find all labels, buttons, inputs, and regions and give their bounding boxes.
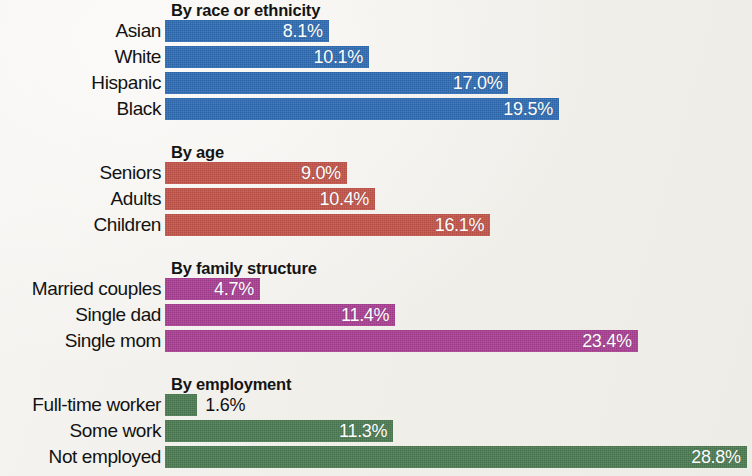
chart-group: By race or ethnicityAsian8.1%White10.1%H… bbox=[0, 0, 752, 124]
bar: 4.7% bbox=[165, 278, 260, 300]
bar-track: 10.4% bbox=[165, 188, 752, 210]
bar: 10.1% bbox=[165, 46, 369, 68]
chart-group: By employmentFull-time worker1.6%Some wo… bbox=[0, 374, 752, 472]
bar: 23.4% bbox=[165, 330, 638, 352]
bar-track: 1.6% bbox=[165, 394, 752, 416]
bar-track: 23.4% bbox=[165, 330, 752, 352]
group-spacer bbox=[0, 356, 752, 374]
bar-value-label: 23.4% bbox=[582, 330, 638, 352]
chart-row: Not employed28.8% bbox=[0, 446, 752, 472]
bar-value-label: 16.1% bbox=[435, 214, 491, 236]
group-spacer bbox=[0, 124, 752, 142]
group-rows: Full-time worker1.6%Some work11.3%Not em… bbox=[0, 394, 752, 472]
group-heading: By employment bbox=[0, 374, 752, 394]
group-heading: By family structure bbox=[0, 258, 752, 278]
category-label: Not employed bbox=[0, 446, 165, 468]
group-rows: Married couples4.7%Single dad11.4%Single… bbox=[0, 278, 752, 356]
bar-value-label: 19.5% bbox=[503, 98, 559, 120]
chart-row: Asian8.1% bbox=[0, 20, 752, 46]
bar: 19.5% bbox=[165, 98, 559, 120]
bar-track: 4.7% bbox=[165, 278, 752, 300]
category-label: Hispanic bbox=[0, 72, 165, 94]
category-label: Single mom bbox=[0, 330, 165, 352]
bar: 1.6% bbox=[165, 394, 197, 416]
chart-row: Single dad11.4% bbox=[0, 304, 752, 330]
category-label: Married couples bbox=[0, 278, 165, 300]
bar-value-label: 4.7% bbox=[214, 278, 260, 300]
bar-value-label: 10.4% bbox=[320, 188, 376, 210]
chart-group: By family structureMarried couples4.7%Si… bbox=[0, 258, 752, 356]
bar-value-label: 11.3% bbox=[339, 420, 393, 442]
chart-row: Adults10.4% bbox=[0, 188, 752, 214]
bar: 16.1% bbox=[165, 214, 490, 236]
bar: 9.0% bbox=[165, 162, 347, 184]
bar-track: 10.1% bbox=[165, 46, 752, 68]
chart-groups: By race or ethnicityAsian8.1%White10.1%H… bbox=[0, 0, 752, 472]
bar-value-label: 1.6% bbox=[197, 394, 245, 416]
chart-row: Black19.5% bbox=[0, 98, 752, 124]
chart-row: Married couples4.7% bbox=[0, 278, 752, 304]
group-heading: By race or ethnicity bbox=[0, 0, 752, 20]
chart-group: By ageSeniors9.0%Adults10.4%Children16.1… bbox=[0, 142, 752, 240]
group-spacer bbox=[0, 240, 752, 258]
chart-row: Some work11.3% bbox=[0, 420, 752, 446]
chart-row: Seniors9.0% bbox=[0, 162, 752, 188]
bar-value-label: 11.4% bbox=[341, 304, 395, 326]
bar-track: 8.1% bbox=[165, 20, 752, 42]
bar-value-label: 9.0% bbox=[301, 162, 347, 184]
bar-value-label: 10.1% bbox=[313, 46, 369, 68]
bar-value-label: 28.8% bbox=[691, 446, 747, 468]
bar-track: 28.8% bbox=[165, 446, 752, 468]
category-label: Children bbox=[0, 214, 165, 236]
bar-track: 9.0% bbox=[165, 162, 752, 184]
bar: 10.4% bbox=[165, 188, 375, 210]
bar-track: 19.5% bbox=[165, 98, 752, 120]
bar-value-label: 8.1% bbox=[283, 20, 329, 42]
category-label: Asian bbox=[0, 20, 165, 42]
category-label: White bbox=[0, 46, 165, 68]
bar-track: 11.3% bbox=[165, 420, 752, 442]
chart-row: Children16.1% bbox=[0, 214, 752, 240]
bar-track: 17.0% bbox=[165, 72, 752, 94]
bar: 28.8% bbox=[165, 446, 747, 468]
category-label: Black bbox=[0, 98, 165, 120]
bar: 8.1% bbox=[165, 20, 329, 42]
chart-row: White10.1% bbox=[0, 46, 752, 72]
category-label: Adults bbox=[0, 188, 165, 210]
group-heading: By age bbox=[0, 142, 752, 162]
chart-row: Hispanic17.0% bbox=[0, 72, 752, 98]
category-label: Single dad bbox=[0, 304, 165, 326]
bar: 11.3% bbox=[165, 420, 393, 442]
category-label: Some work bbox=[0, 420, 165, 442]
bar-value-label: 17.0% bbox=[453, 72, 509, 94]
bar-track: 16.1% bbox=[165, 214, 752, 236]
bar-track: 11.4% bbox=[165, 304, 752, 326]
chart-row: Single mom23.4% bbox=[0, 330, 752, 356]
bar: 11.4% bbox=[165, 304, 395, 326]
category-label: Seniors bbox=[0, 162, 165, 184]
group-rows: Asian8.1%White10.1%Hispanic17.0%Black19.… bbox=[0, 20, 752, 124]
chart-row: Full-time worker1.6% bbox=[0, 394, 752, 420]
bar-chart: By race or ethnicityAsian8.1%White10.1%H… bbox=[0, 0, 752, 476]
bar: 17.0% bbox=[165, 72, 508, 94]
group-rows: Seniors9.0%Adults10.4%Children16.1% bbox=[0, 162, 752, 240]
category-label: Full-time worker bbox=[0, 394, 165, 416]
